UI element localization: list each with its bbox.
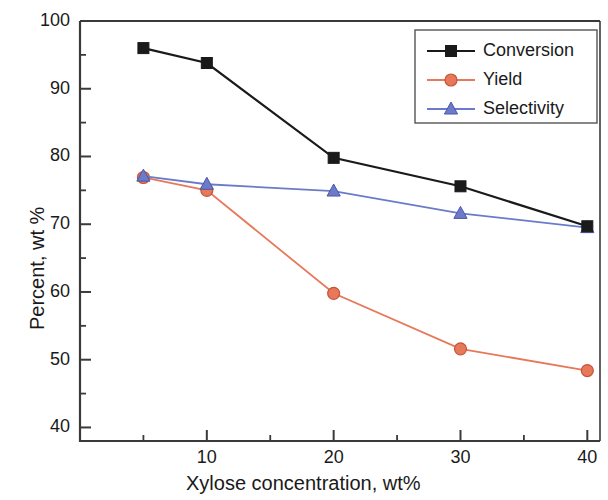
y-axis-title: Percent, wt % — [26, 207, 49, 330]
legend-item-selectivity: Selectivity — [483, 98, 564, 119]
x-tick-label: 10 — [184, 447, 230, 468]
legend-item-yield: Yield — [483, 69, 522, 90]
y-tick-label: 100 — [24, 10, 70, 31]
x-tick-label: 20 — [311, 447, 357, 468]
line-chart: 100908070605040 10203040 Percent, wt % X… — [0, 0, 608, 500]
y-tick-label: 90 — [24, 78, 70, 99]
x-axis-title: Xylose concentration, wt% — [186, 472, 421, 495]
y-tick-label: 40 — [24, 416, 70, 437]
x-tick-label: 30 — [437, 447, 483, 468]
y-tick-label: 80 — [24, 145, 70, 166]
x-tick-label: 40 — [564, 447, 608, 468]
legend-item-conversion: Conversion — [483, 40, 574, 61]
y-tick-label: 50 — [24, 349, 70, 370]
